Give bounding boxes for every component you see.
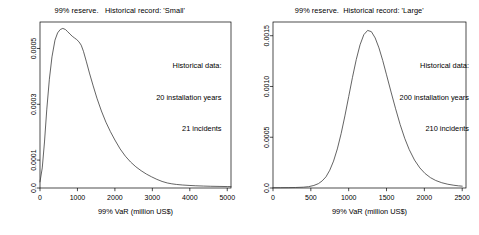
x-tick-label: 2500	[454, 194, 470, 201]
y-tick-label: 0.0	[263, 183, 270, 193]
y-tick-label: 0.0003	[30, 93, 37, 115]
annotation-small-line1: Historical data:	[156, 61, 221, 72]
x-tick-label: 2000	[416, 194, 432, 201]
x-tick-label: 1500	[378, 194, 394, 201]
x-tick-label: 3000	[145, 194, 161, 201]
x-tick-label: 4000	[182, 194, 198, 201]
y-tick-label: 0.0015	[263, 25, 270, 47]
x-tick-label: 500	[304, 194, 316, 201]
x-tick-label: 0	[271, 194, 275, 201]
x-axis-title: 99% VaR (million US$)	[98, 207, 173, 216]
y-tick-label: 0.0010	[263, 76, 270, 98]
annotation-small-line2: 20 installation years	[156, 93, 221, 104]
y-tick-label: 0.0001	[30, 149, 37, 171]
annotation-large: Historical data: 200 installation years …	[400, 40, 469, 156]
y-tick-label: 0.0005	[30, 38, 37, 60]
panel-large: 99% reserve. Historical record: 'Large' …	[240, 0, 479, 235]
panel-small: 99% reserve. Historical record: 'Small' …	[0, 0, 240, 235]
annotation-large-line3: 210 incidents	[400, 124, 469, 135]
x-axis-title: 99% VaR (million US$)	[331, 207, 406, 216]
x-tick-label: 1000	[70, 194, 86, 201]
x-tick-label: 2000	[107, 194, 123, 201]
annotation-small: Historical data: 20 installation years 2…	[156, 40, 221, 156]
annotation-small-line3: 21 incidents	[156, 124, 221, 135]
annotation-large-line2: 200 installation years	[400, 93, 469, 104]
x-tick-label: 5000	[219, 194, 235, 201]
annotation-large-line1: Historical data:	[400, 61, 469, 72]
y-tick-label: 0.0	[30, 183, 37, 193]
x-tick-label: 1000	[340, 194, 356, 201]
x-tick-label: 0	[38, 194, 42, 201]
figure-container: 99% reserve. Historical record: 'Small' …	[0, 0, 479, 235]
y-tick-label: 0.0005	[263, 126, 270, 148]
